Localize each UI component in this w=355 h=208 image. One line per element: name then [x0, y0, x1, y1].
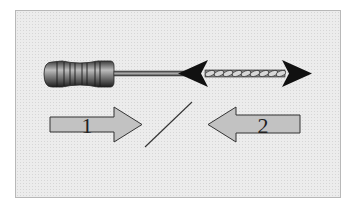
twisted-flute-icon [204, 69, 286, 77]
arrow-2-label: 2 [258, 113, 269, 138]
arrow-1-right-icon: 1 [50, 107, 142, 142]
diagonal-separator [145, 102, 192, 147]
arrow-1-label: 1 [82, 113, 93, 138]
arrow-2-left-icon: 2 [208, 107, 300, 142]
file-handle-icon [44, 61, 114, 87]
diagram-canvas: 1 2 [0, 0, 355, 208]
